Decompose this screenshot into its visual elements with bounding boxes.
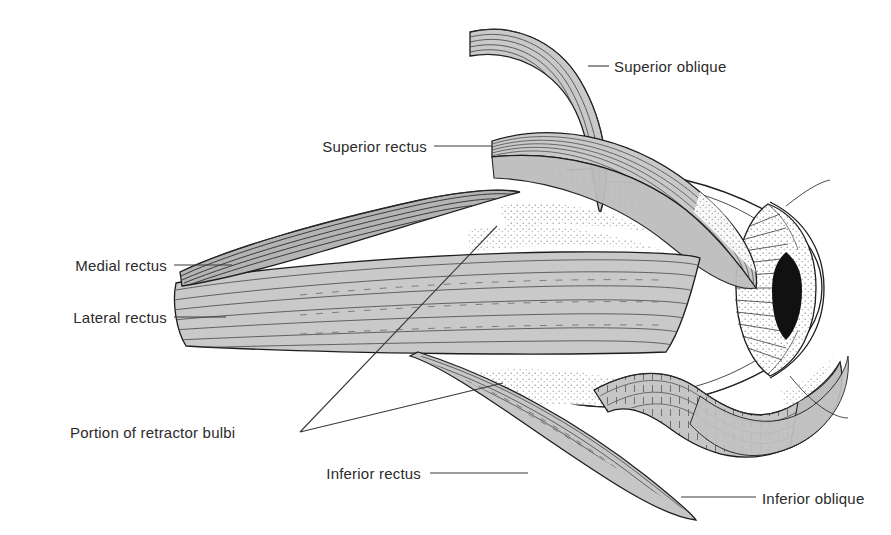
label-inferior-oblique: Inferior oblique xyxy=(762,490,864,507)
label-medial-rectus: Medial rectus xyxy=(75,257,167,274)
label-superior-oblique: Superior oblique xyxy=(614,58,726,75)
eye-muscle-diagram: Superior oblique Superior rectus Medial … xyxy=(0,0,891,535)
label-lateral-rectus: Lateral rectus xyxy=(73,309,167,326)
label-superior-rectus: Superior rectus xyxy=(322,138,427,155)
label-inferior-rectus: Inferior rectus xyxy=(326,465,421,482)
label-portion-of-retractor-bulbi: Portion of retractor bulbi xyxy=(70,424,235,441)
